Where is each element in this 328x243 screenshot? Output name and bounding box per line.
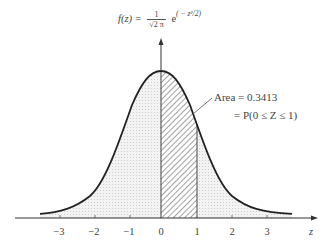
x-axis-label: z	[309, 226, 313, 237]
normal-curve-diagram	[0, 0, 328, 243]
y-axis-arrowhead	[159, 38, 164, 45]
area-annotation-line1: Area = 0.3413	[214, 92, 277, 103]
exponent: ( − z²/2)	[176, 9, 201, 18]
tick-label: 1	[194, 226, 199, 237]
tick-label: 2	[229, 226, 234, 237]
shaded-area-0-to-1	[161, 71, 197, 218]
fraction-denominator: √2 π	[147, 20, 165, 29]
formula-fraction: 1 √2 π	[147, 10, 165, 29]
tick-label: −2	[88, 226, 99, 237]
tick-label: −1	[123, 226, 134, 237]
tick-label: 3	[264, 226, 269, 237]
tick-label: −3	[53, 226, 64, 237]
formula-lhs: f(z) =	[118, 13, 142, 24]
density-formula: f(z) = 1 √2 π e( − z²/2)	[118, 9, 201, 29]
fraction-numerator: 1	[147, 10, 165, 20]
x-axis-arrowhead	[311, 216, 318, 221]
area-annotation-line2: = P(0 ≤ Z ≤ 1)	[234, 110, 297, 121]
tick-label: 0	[158, 226, 163, 237]
annotation-leader-line	[193, 98, 212, 114]
